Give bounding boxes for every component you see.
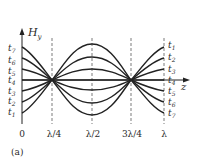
left-label: t1 (8, 107, 15, 118)
x-tick-labels: 0 λ/4 λ/2 3λ/4 λ (19, 129, 167, 139)
left-label: t6 (8, 55, 16, 66)
x-tick-lambda-quarter: λ/4 (47, 129, 62, 139)
right-label: t4 (168, 75, 176, 86)
right-label: t2 (168, 52, 176, 63)
right-label: t6 (168, 97, 176, 108)
panel-label: (a) (11, 147, 23, 157)
z-axis-label: z (180, 81, 187, 92)
left-label: t2 (8, 96, 16, 107)
y-axis-arrow-icon (20, 28, 25, 35)
left-label: t7 (8, 43, 16, 54)
right-label: t3 (168, 64, 176, 75)
x-tick-lambda-half: λ/2 (86, 129, 100, 139)
x-tick-lambda: λ (161, 129, 167, 139)
right-label: t7 (168, 108, 176, 119)
right-label: t1 (168, 40, 175, 51)
right-label: t5 (168, 86, 176, 97)
y-axis-label: Hy (27, 26, 43, 41)
right-time-labels: t1 t2 t3 t4 t5 t6 t7 (168, 40, 176, 119)
x-tick-three-lambda-quarter: 3λ/4 (122, 129, 142, 139)
left-time-labels: t7 t6 t5 t4 t3 t2 t1 (8, 43, 16, 118)
x-tick-0: 0 (19, 129, 25, 139)
standing-wave-diagram: Hy z t7 t6 t5 t4 t3 t2 t1 t1 t2 t3 t4 t5… (0, 0, 209, 163)
